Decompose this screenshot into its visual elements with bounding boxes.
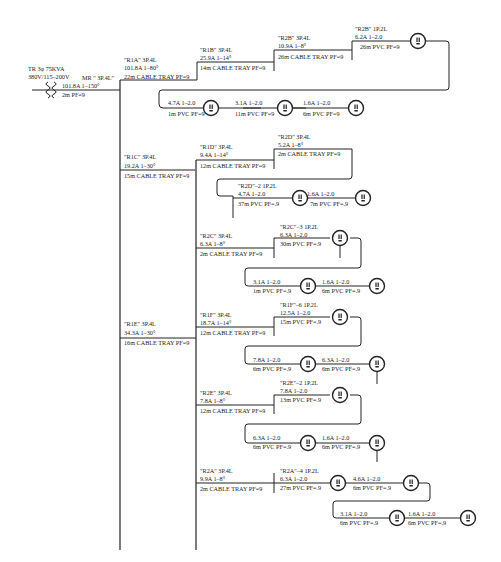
circuit-R2D-2-cable: 37m PVC PF=.9 [238, 200, 279, 207]
panel-R2A-name: "R2A" 3P.4L [200, 467, 233, 474]
feeder-R1B: "R1B" 3P.4L 25.9A 1–14° 14m CABLE TRAY P… [197, 46, 274, 71]
panel-R1C-cable: 15m CABLE TRAY PF=9 [124, 172, 189, 179]
panel-R1C-rating: 19.2A 1–30° [124, 162, 156, 169]
panel-R2B-rating: 10.9A 1–8° [278, 42, 307, 49]
circuit-R1F-6-name: "R1F"–6 1P.2L [280, 301, 318, 308]
circuit-R2A-4: "R2A"–4 1P.2L 6.3A 1–2.0 27m PVC PF=.9 4… [274, 467, 460, 526]
circuit-R2A-o4-rating: 1.6A 1–2.0 [408, 510, 435, 517]
panel-R2E-cable: 12m CABLE TRAY PF=9 [200, 407, 265, 414]
feeder-R2C: "R2C" 3P.4L 6.3A 1–8° 2m CABLE TRAY PF=9 [196, 232, 274, 258]
single-line-diagram: TR 3φ 75KVA 380V/115–200V MR " 3P.4L" 10… [0, 0, 501, 562]
panel-R2A-cable: 2m CABLE TRAY PF=9 [200, 485, 262, 492]
duplex-outlet-icon [349, 101, 364, 116]
duplex-outlet-icon [331, 476, 346, 491]
circuit-R1B-o2-rating: 3.1A 1–2.0 [235, 99, 262, 106]
panel-R2E-rating: 7.8A 1–8° [200, 397, 226, 404]
circuit-R2C-o3-rating: 1.6A 1–2.0 [322, 278, 349, 285]
duplex-outlet-icon [301, 357, 316, 372]
panel-R2B-cable: 26m CABLE TRAY PF=9 [278, 53, 343, 60]
circuit-R2C-o3-cable: 6m PVC PF=.9 [322, 287, 360, 294]
panel-R1D-rating: 9.4A 1–14° [200, 151, 229, 158]
feeder-R1C: "R1C" 3P.4L 19.2A 1–30° 15m CABLE TRAY P… [120, 153, 195, 179]
duplex-outlet-icon [333, 310, 348, 325]
feeder-R1D: "R1D" 3P.4L 9.4A 1–14° 12m CABLE TRAY PF… [196, 143, 274, 169]
circuit-R2D-2-rating: 4.7A 1–2.0 [238, 190, 265, 197]
circuit-R2B-cable: 26m PVC PF=9 [360, 43, 400, 50]
panel-R1E-rating: 34.3A 1–30° [124, 329, 156, 336]
circuit-R2A-4-cable: 27m PVC PF=.9 [280, 484, 321, 491]
duplex-outlet-icon [390, 511, 405, 526]
circuit-R1F-o2-cable: 6m PVC PF=.9 [253, 365, 291, 372]
duplex-outlet-icon [370, 436, 385, 451]
panel-R1E-name: "R1E" 3P.4L [124, 320, 156, 327]
feeder-R1A: "R1A" 3P.4L 101.8A 1–80° 22m CABLE TRAY … [120, 56, 197, 80]
feeder-R2E: "R2E" 3P.4L 7.8A 1–8° 12m CABLE TRAY PF=… [196, 389, 274, 414]
circuit-R2D-o2-cable: 7m PVC PF=.9 [310, 200, 348, 207]
circuit-R1F-o3-cable: 6m PVC PF=.9 [322, 365, 360, 372]
duplex-outlet-icon [411, 34, 426, 49]
panel-R1B-name: "R1B" 3P.4L [200, 46, 232, 53]
circuit-R2D-o2-rating: 1.6A 1–2.0 [307, 190, 334, 197]
feeder-R1E: "R1E" 3P.4L 34.3A 1–30° 16m CABLE TRAY P… [120, 320, 196, 346]
circuit-R2E-2-rating: 7.8A 1–2.0 [280, 387, 307, 394]
panel-R2C-name: "R2C" 3P.4L [200, 232, 232, 239]
panel-R1F-rating: 18.7A 1–14° [200, 319, 232, 326]
circuit-R2E-o2-rating: 6.3A 1–2.0 [253, 434, 280, 441]
circuit-R2B-rating: 6.2A 1–2.0 [355, 33, 382, 40]
panel-R2D-name: "R2D" 3P.4L [278, 133, 311, 140]
circuit-R1B-o3-cable: 6m PVC PF=9 [303, 110, 340, 117]
circuit-R1B-o1-cable: 1m PVC PF=9 [168, 110, 205, 117]
circuit-R2A-o4-cable: 6m PVC PF=.9 [408, 519, 446, 526]
circuit-R2A-4-name: "R2A"–4 1P.2L [280, 467, 319, 474]
duplex-outlet-icon [278, 101, 293, 116]
panel-R2B-name: "R2B" 3P.4L [278, 34, 310, 41]
duplex-outlet-icon [370, 357, 385, 372]
circuit-R1B-o2-cable: 11m PVC PF=9 [235, 110, 274, 117]
duplex-outlet-icon [404, 476, 419, 491]
circuit-R2B-name: "R2B" 1P.2L [355, 25, 387, 32]
main-cable-spec: 2m PF=9 [62, 91, 85, 98]
panel-R2A-rating: 9.9A 1–8° [200, 475, 226, 482]
panel-R2C-rating: 6.3A 1–8° [200, 240, 226, 247]
transformer-voltage: 380V/115–200V [28, 73, 70, 80]
panel-R1E-cable: 16m CABLE TRAY PF=9 [124, 339, 189, 346]
circuit-R2E-o2-cable: 6m PVC PF=.9 [253, 443, 291, 450]
circuit-R2E-o3-cable: 6m PVC PF=.9 [322, 443, 360, 450]
panel-R1A-name: "R1A" 3P.4L [124, 56, 157, 63]
panel-R2C-cable: 2m CABLE TRAY PF=9 [200, 250, 262, 257]
circuit-R2E-o3-rating: 1.6A 1–2.0 [322, 434, 349, 441]
circuit-R1F-o3-rating: 6.3A 1–2.0 [322, 356, 349, 363]
panel-R2D-cable: 2m CABLE TRAY PF=9 [278, 150, 340, 157]
panel-R1D-name: "R1D" 3P.4L [200, 143, 233, 150]
panel-R1D-cable: 12m CABLE TRAY PF=9 [200, 162, 265, 169]
duplex-outlet-icon [204, 101, 219, 116]
duplex-outlet-icon [333, 231, 348, 246]
duplex-outlet-icon [293, 191, 308, 206]
feeder-R2B: "R2B" 3P.4L 10.9A 1–8° 26m CABLE TRAY PF… [274, 34, 352, 62]
duplex-outlet-icon [301, 436, 316, 451]
transformer: TR 3φ 75KVA 380V/115–200V MR " 3P.4L" 10… [28, 65, 120, 98]
duplex-outlet-icon [461, 511, 476, 526]
circuit-R2C-o2-cable: 1m PVC PF=.9 [253, 287, 291, 294]
panel-R2D-rating: 5.2A 1–8° [278, 141, 304, 148]
circuit-R2E-2-name: "R2E"–2 1P.2L [280, 379, 318, 386]
circuit-R2C-3-rating: 6.3A 1–2.0 [280, 231, 307, 238]
circuit-R2E-2-cable: 13m PVC PF=.9 [280, 396, 321, 403]
duplex-outlet-icon [370, 279, 385, 294]
circuit-R2C-3-name: "R2C"–3 1P.2L [280, 223, 319, 230]
panel-R1F-cable: 12m CABLE TRAY PF=9 [200, 329, 265, 336]
circuit-R2A-o3-cable: 6m PVC PF=.9 [340, 519, 378, 526]
duplex-outlet-icon [333, 388, 348, 403]
circuit-R2C-o2-rating: 3.1A 1–2.0 [253, 278, 280, 285]
main-breaker-rating: 101.8A 1–150° [62, 82, 100, 89]
panel-R1A-rating: 101.8A 1–80° [124, 64, 159, 71]
main-breaker-label: MR " 3P.4L" [82, 74, 115, 81]
circuit-R1F-6-cable: 15m PVC PF=.9 [280, 318, 321, 325]
panel-R2E-name: "R2E" 3P.4L [200, 389, 232, 396]
panel-R1A-cable: 22m CABLE TRAY PF=9 [124, 73, 189, 80]
duplex-outlet-icon [301, 279, 316, 294]
circuit-R2C-3-cable: 30m PVC PF=.9 [280, 240, 321, 247]
circuit-R2D-2-name: "R2D"–2 1P.2L [238, 182, 277, 189]
circuit-R1F-6-rating: 12.5A 1–2.0 [280, 309, 310, 316]
circuit-R1B-o3-rating: 1.6A 1–2.0 [303, 99, 330, 106]
